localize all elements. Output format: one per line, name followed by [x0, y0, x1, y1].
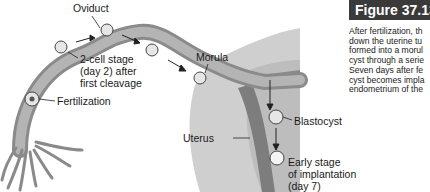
diagram-stage: Oviduct 2-cell stage (day 2) after first…: [0, 0, 430, 192]
two-cell-embryo: [55, 41, 67, 53]
blastocyst-embryo: [269, 110, 283, 124]
label-fertilization: Fertilization: [57, 96, 111, 108]
label-uterus: Uterus: [183, 133, 214, 145]
label-two-cell-cleavage: first cleavage: [80, 78, 142, 90]
label-two-cell-stage: 2-cell stage: [80, 54, 134, 66]
label-oviduct: Oviduct: [73, 3, 109, 15]
label-two-cell-day: (day 2) after: [80, 66, 137, 78]
fimbriae: [2, 142, 82, 190]
label-blastocyst: Blastocyst: [294, 116, 342, 128]
label-early-stage: Early stage: [288, 157, 341, 169]
morula-embryo: [194, 72, 206, 84]
implanting-embryo: [270, 151, 284, 165]
label-of-implantation: of implantation: [288, 169, 356, 181]
label-morula: Morula: [196, 52, 228, 64]
label-day-7: (day 7): [288, 181, 321, 192]
figure-caption: After fertilization, th down the uterine…: [349, 27, 430, 95]
caption-line: endometrium of the: [349, 85, 430, 95]
figure-title: Figure 37.13: [349, 0, 430, 20]
